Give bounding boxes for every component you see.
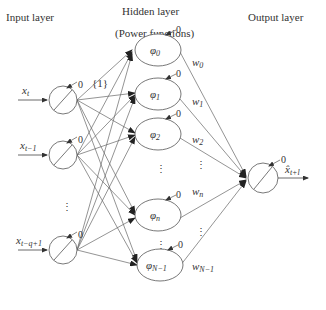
hidden-output-connections (180, 52, 246, 266)
hidden-node-n: 0 φn (135, 189, 181, 231)
svg-text:0: 0 (176, 68, 181, 79)
svg-text:0: 0 (78, 134, 83, 145)
svg-text:0: 0 (176, 24, 181, 35)
input-node-1: 0 xt−1 (18, 134, 83, 169)
weight-wn: wn (192, 185, 203, 199)
svg-text:0: 0 (176, 189, 181, 200)
output-layer-title: Output layer (248, 11, 304, 23)
hidden-layer-title: Hidden layer (122, 5, 179, 17)
hidden-node-2: 0 φ2 (135, 108, 181, 150)
weight-labels: w0 w1 w2 ⋮ wn ⋮ wN−1 (192, 56, 214, 274)
weight-w1: w1 (192, 95, 203, 109)
svg-text:0: 0 (78, 79, 83, 90)
weight-w0: w0 (192, 56, 203, 70)
hidden-node-1: 0 φ1 (135, 68, 181, 110)
input-label-xt: xt (21, 84, 30, 98)
weight-wN-1: wN−1 (192, 260, 214, 274)
input-ellipsis: ⋮ (62, 201, 72, 212)
svg-text:0: 0 (178, 239, 183, 250)
input-node-2: 0 xt−q+1 (15, 229, 83, 264)
input-label-xt-1: xt−1 (19, 139, 37, 153)
weight-ellipsis-1: ⋮ (196, 159, 206, 170)
weight-ellipsis-2: ⋮ (196, 226, 206, 237)
hidden-ellipsis-1: ⋮ (156, 163, 166, 174)
svg-text:0: 0 (78, 229, 83, 240)
output-label: x̂t+l (284, 163, 301, 177)
hidden-ellipsis-2: ⋮ (156, 239, 166, 250)
svg-text:0: 0 (176, 108, 181, 119)
input-node-0: 0 xt (18, 79, 83, 114)
weight-w2: w2 (192, 133, 203, 147)
neural-network-diagram: Input layer Hidden layer (Power function… (0, 0, 326, 310)
output-node: 0 x̂t+l (248, 154, 308, 193)
input-layer-title: Input layer (6, 11, 54, 23)
input-label-xt-q+1: xt−q+1 (15, 234, 42, 248)
